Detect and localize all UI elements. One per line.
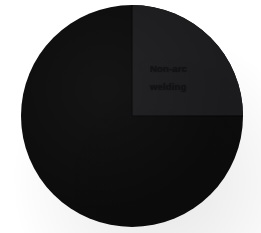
pie-chart-svg [0,0,261,233]
pie-slice-non-arc-welding[interactable] [132,5,243,116]
pie-chart-figure: Non-arc welding [0,0,261,233]
